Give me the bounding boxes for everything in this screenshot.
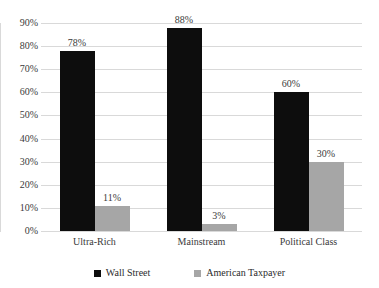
legend-item[interactable]: American Taxpayer <box>194 268 285 278</box>
grid-line <box>41 231 362 232</box>
y-axis-tick-label: 10% <box>4 203 38 213</box>
x-axis-category-label: Political Class <box>255 236 362 247</box>
bar-value-label: 3% <box>212 211 225 221</box>
bar[interactable]: 30% <box>309 162 344 231</box>
y-axis-tick-label: 20% <box>4 180 38 190</box>
y-axis-tick-label: 70% <box>4 64 38 74</box>
bar-value-label: 60% <box>282 79 300 89</box>
y-axis-tick-label: 50% <box>4 110 38 120</box>
legend-item[interactable]: Wall Street <box>94 268 150 278</box>
legend-label: American Taxpayer <box>206 268 285 278</box>
bar-group-bars: 60%30% <box>255 23 362 231</box>
bar-value-label: 11% <box>103 193 121 203</box>
bar-value-label: 78% <box>68 38 86 48</box>
bar-group-bars: 78%11% <box>41 23 148 231</box>
bar-groups: 78%11%88%3%60%30% <box>41 23 362 231</box>
x-axis-categories: Ultra-RichMainstreamPolitical Class <box>41 236 362 247</box>
bar[interactable]: 78% <box>60 51 95 231</box>
y-axis-tick-label: 30% <box>4 157 38 167</box>
x-axis-category-label: Ultra-Rich <box>41 236 148 247</box>
bar[interactable]: 3% <box>202 224 237 231</box>
bar-group-bars: 88%3% <box>148 23 255 231</box>
x-axis-category-label: Mainstream <box>148 236 255 247</box>
legend-swatch-icon <box>94 270 101 277</box>
bar-group: 78%11% <box>41 23 148 231</box>
bar-value-label: 88% <box>175 15 193 25</box>
y-axis-tick-label: 40% <box>4 134 38 144</box>
y-axis-tick-label: 90% <box>4 18 38 28</box>
y-axis-tick-label: 80% <box>4 41 38 51</box>
bar-group: 88%3% <box>148 23 255 231</box>
y-axis-tick-label: 0% <box>4 226 38 236</box>
bar[interactable]: 11% <box>95 206 130 231</box>
bar[interactable]: 88% <box>167 28 202 231</box>
bar-group: 60%30% <box>255 23 362 231</box>
bar[interactable]: 60% <box>274 92 309 231</box>
bar-value-label: 30% <box>317 149 335 159</box>
y-axis: 90%80%70%60%50%40%30%20%10%0% <box>0 23 38 231</box>
y-axis-tick-label: 60% <box>4 87 38 97</box>
legend-swatch-icon <box>194 270 201 277</box>
legend-label: Wall Street <box>106 268 150 278</box>
chart-legend: Wall StreetAmerican Taxpayer <box>0 268 379 278</box>
bar-chart: 90%80%70%60%50%40%30%20%10%0% 78%11%88%3… <box>0 0 379 288</box>
